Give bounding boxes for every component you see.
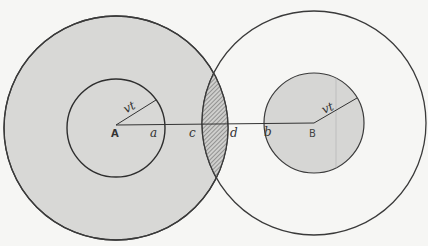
diagram-canvas: A a c d b B vt vt xyxy=(0,0,428,246)
label-b: b xyxy=(264,125,272,139)
label-center-b: B xyxy=(309,128,316,139)
circles-diagram: A a c d b B vt vt xyxy=(0,0,428,246)
label-c: c xyxy=(189,126,196,140)
label-a: a xyxy=(150,126,157,140)
label-center-a: A xyxy=(111,128,119,139)
label-d: d xyxy=(230,126,238,140)
